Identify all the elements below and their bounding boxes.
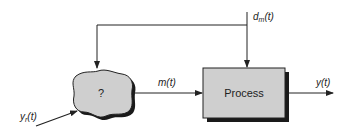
controller-label: ?	[98, 87, 104, 99]
process-block: Process	[203, 68, 289, 122]
block-diagram: dm(t) ? yr(t) m(t) Process y(t)	[0, 0, 351, 133]
manipulated-label: m(t)	[158, 77, 176, 88]
output-label: y(t)	[315, 77, 330, 88]
controller-block: ?	[73, 70, 136, 120]
disturbance-signal: dm(t)	[97, 11, 274, 68]
manipulated-signal: m(t)	[133, 77, 202, 93]
disturbance-label: dm(t)	[253, 11, 274, 23]
process-label: Process	[224, 87, 264, 99]
setpoint-label: yr(t)	[19, 111, 37, 123]
output-signal: y(t)	[289, 77, 333, 93]
setpoint-signal: yr(t)	[19, 111, 77, 126]
